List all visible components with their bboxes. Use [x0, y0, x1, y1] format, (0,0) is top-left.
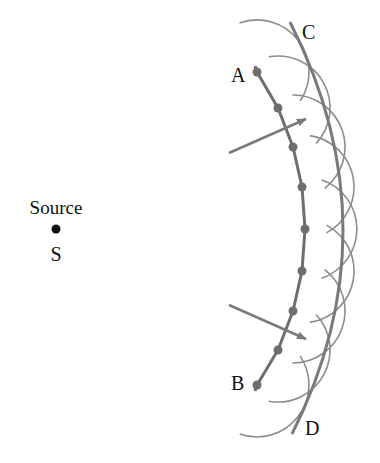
- wavelet-arc: [240, 356, 309, 437]
- label-s: S: [50, 243, 61, 265]
- secondary-source-dot: [274, 104, 283, 113]
- label-source: Source: [30, 197, 83, 218]
- label-c: C: [302, 21, 315, 43]
- secondary-wavelets: [240, 20, 357, 437]
- secondary-source-dot: [253, 381, 262, 390]
- secondary-source-dot: [289, 143, 298, 152]
- wavefront-ab: [255, 66, 305, 391]
- secondary-source-dot: [298, 183, 307, 192]
- secondary-source-dot: [253, 68, 262, 77]
- secondary-source-dot: [274, 346, 283, 355]
- wavelet-arc: [321, 180, 356, 279]
- label-b: B: [231, 372, 244, 394]
- huygens-diagram: Source S A B C D: [0, 0, 380, 463]
- label-a: A: [231, 64, 246, 86]
- secondary-source-dot: [289, 307, 298, 316]
- label-d: D: [305, 417, 319, 439]
- secondary-source-dot: [298, 267, 307, 276]
- diagram-canvas: Source S A B C D: [0, 0, 380, 463]
- secondary-source-dot: [301, 225, 310, 234]
- source-point-icon: [52, 225, 61, 234]
